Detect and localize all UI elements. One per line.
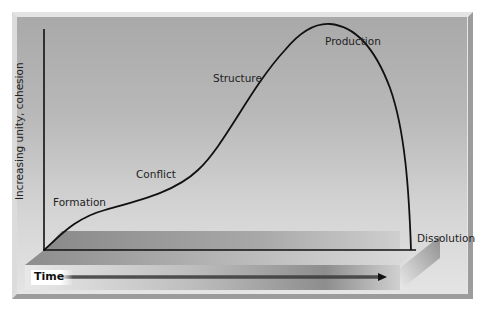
development-curve [44,24,411,250]
stage-label-structure: Structure [213,72,262,84]
platform-band [25,250,415,265]
dissolution-block [400,236,440,290]
y-axis-label: Increasing unity, cohesion [13,62,25,200]
platform-top-face [44,231,400,250]
group-development-diagram [0,0,488,310]
stage-label-conflict: Conflict [136,168,176,180]
stage-label-production: Production [325,35,381,47]
x-axis-label: Time [34,270,64,283]
stage-label-dissolution: Dissolution [417,232,475,244]
stage-label-formation: Formation [53,196,106,208]
